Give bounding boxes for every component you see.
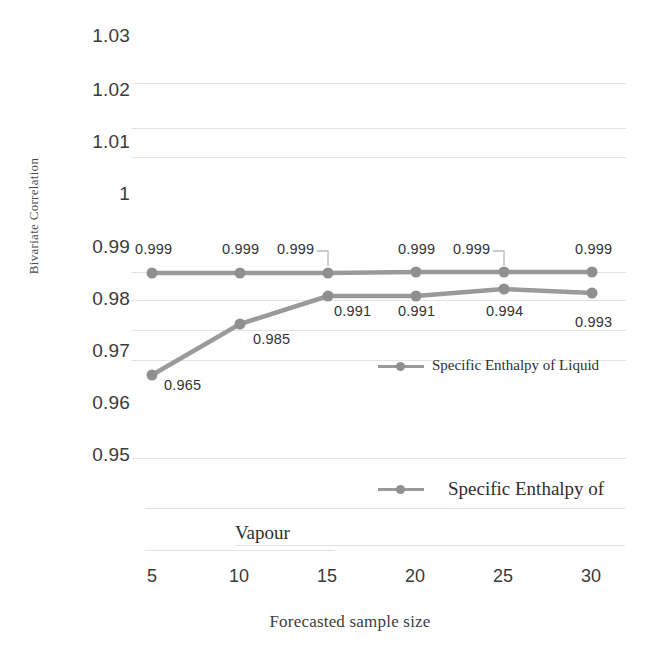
- y-tick-label: 0.98: [52, 288, 130, 310]
- series-2-data-label: 0.991: [334, 303, 371, 319]
- legend-item-vapour[interactable]: Specific Enthalpy of: [378, 478, 604, 500]
- x-tick-label: 30: [571, 566, 611, 587]
- legend-label-continued: Vapour: [235, 522, 290, 544]
- series-1-marker: [323, 268, 334, 279]
- x-axis-title: Forecasted sample size: [200, 612, 500, 632]
- y-tick-label: 0.96: [52, 392, 130, 414]
- gridline-0.955: [132, 458, 626, 459]
- gridline-0.99: [132, 272, 626, 273]
- series-1-data-label: 0.999: [222, 241, 259, 257]
- series-1-data-label: 0.999: [277, 241, 314, 257]
- series-1-marker: [147, 268, 158, 279]
- x-tick-label: 10: [219, 566, 259, 587]
- series-1-data-label: 0.999: [453, 241, 490, 257]
- x-tick-label: 25: [483, 566, 523, 587]
- series-1-data-label: 0.999: [398, 241, 435, 257]
- gridline-0.98: [132, 330, 626, 331]
- series-2-marker: [587, 288, 598, 299]
- gridline-1.005: [132, 157, 626, 158]
- series-2-marker: [147, 370, 158, 381]
- legend-item-liquid[interactable]: Specific Enthalpy of Liquid: [378, 357, 599, 374]
- series-2-data-label: 0.965: [164, 377, 201, 393]
- leader-line-15: [317, 251, 328, 266]
- y-tick-label: 1.01: [52, 131, 130, 153]
- y-tick-label: 0.97: [52, 340, 130, 362]
- gridline-bottom: [145, 508, 625, 509]
- gridline-axis-base: [145, 550, 335, 551]
- leader-line-25: [493, 251, 504, 266]
- y-tick-label: 0.99: [52, 236, 130, 258]
- gridline-0.985: [132, 300, 626, 301]
- x-tick-label: 15: [307, 566, 347, 587]
- y-tick-label: 1.03: [52, 25, 130, 47]
- y-tick-label: 1: [52, 183, 130, 205]
- series-1-marker: [235, 268, 246, 279]
- series-2-data-label: 0.985: [253, 331, 290, 347]
- series-2-data-label: 0.994: [486, 303, 523, 319]
- gridline-vapour-underline: [235, 545, 625, 546]
- gridline-1.02: [132, 83, 626, 84]
- series-2-marker: [235, 319, 246, 330]
- gridline-1.01: [132, 128, 626, 129]
- legend-label: Specific Enthalpy of Liquid: [432, 357, 599, 374]
- y-tick-label: 0.95: [52, 444, 130, 466]
- series-2-data-label: 0.993: [575, 314, 612, 330]
- series-1-data-label: 0.999: [575, 241, 612, 257]
- series-1-data-label: 0.999: [135, 241, 172, 257]
- y-axis-title: Bivariate Correlation: [26, 116, 42, 316]
- series-2-marker: [499, 284, 510, 295]
- legend-marker-icon: [378, 483, 424, 495]
- x-tick-label: 5: [132, 566, 172, 587]
- series-2-data-label: 0.991: [398, 303, 435, 319]
- legend-marker-icon: [378, 360, 424, 372]
- y-tick-label: 1.02: [52, 79, 130, 101]
- x-tick-label: 20: [395, 566, 435, 587]
- chart-figure: Bivariate Correlation 1.03 1.02 1.01 1 0…: [0, 0, 662, 662]
- legend-label: Specific Enthalpy of: [448, 478, 604, 500]
